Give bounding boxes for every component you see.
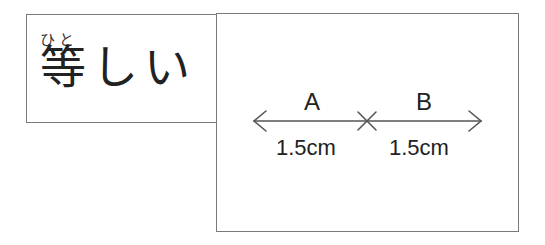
segment-b-label: B [416,88,432,116]
segment-diagram [0,0,545,245]
segment-a-label: A [304,88,320,116]
segment-b-length: 1.5cm [389,135,449,161]
segment-a-length: 1.5cm [276,135,336,161]
